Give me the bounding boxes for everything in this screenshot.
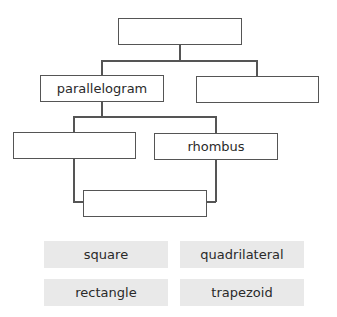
connector-to-level3-left [73,116,75,132]
connector-rhombus-down [215,159,217,202]
level3-left-box[interactable] [13,132,136,159]
tile-rectangle[interactable]: rectangle [44,279,168,306]
parallelogram-box[interactable]: parallelogram [40,75,164,102]
rhombus-box[interactable]: rhombus [154,133,278,160]
tile-quadrilateral[interactable]: quadrilateral [180,241,304,268]
connector-parallelogram-down [101,101,103,117]
tile-square[interactable]: square [44,241,168,268]
connector-level3-horizontal [73,116,216,118]
tile-trapezoid[interactable]: trapezoid [180,279,304,306]
bottom-box[interactable] [83,190,207,217]
level2-right-box[interactable] [196,76,319,103]
connector-root-down [179,44,181,60]
connector-to-parallelogram [101,60,103,75]
connector-to-right-box [256,60,258,76]
connector-level3-left-down [73,158,75,202]
connector-level2-horizontal [101,60,258,62]
root-box[interactable] [118,18,242,45]
connector-to-rhombus [215,116,217,133]
